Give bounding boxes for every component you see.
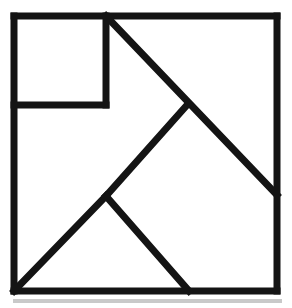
tangram-figure: Tangram dissection diagram A square outl…: [0, 0, 292, 308]
piece-small-square: [14, 16, 106, 105]
tangram-svg: Tangram dissection diagram A square outl…: [0, 0, 292, 308]
